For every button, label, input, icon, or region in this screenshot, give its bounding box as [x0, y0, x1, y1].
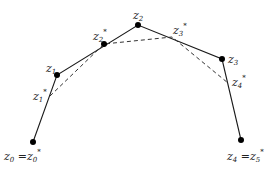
label-z2: z2 [132, 9, 144, 23]
label-z4-star: z4* [231, 74, 246, 90]
solid-polyline [33, 25, 241, 142]
diagram-canvas: z0 =z0* z1 z1* z2* z2 z3* z3 z4* z4 =z5* [0, 0, 274, 171]
label-z3: z3 [227, 53, 239, 67]
point-z4 [238, 137, 244, 143]
point-z3 [219, 56, 225, 62]
label-z4-eq-z5star: z4 =z5* [226, 148, 264, 164]
point-z0 [30, 139, 36, 145]
dashed-polyline [50, 37, 228, 96]
diagram-svg: z0 =z0* z1 z1* z2* z2 z3* z3 z4* z4 =z5* [0, 0, 274, 171]
label-z1: z1 [45, 62, 56, 76]
label-z1-star: z1* [32, 88, 47, 104]
label-z0-eq-z0star: z0 =z0* [3, 148, 41, 164]
label-z3-star: z3* [172, 22, 187, 38]
